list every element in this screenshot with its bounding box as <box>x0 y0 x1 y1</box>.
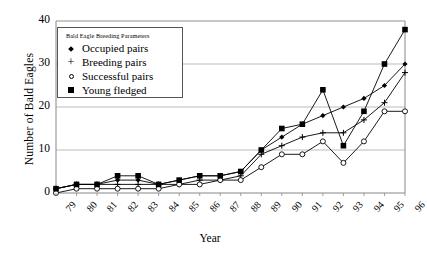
y-tick-label: 20 <box>24 99 50 111</box>
y-tick-label: 30 <box>24 56 50 68</box>
legend-item-breeding-pairs: + Breeding pairs <box>63 55 177 69</box>
chart-legend: Bald Eagle Breeding Parameters Occupied … <box>57 27 183 98</box>
legend-item-successful-pairs: Successful pairs <box>63 69 177 83</box>
diamond-icon <box>63 43 79 53</box>
y-tick-label: 0 <box>24 185 50 197</box>
open-circle-icon <box>63 71 79 81</box>
y-tick-label: 10 <box>24 142 50 154</box>
legend-item-young-fledged: Young fledged <box>63 83 177 97</box>
legend-label-breeding-pairs: Breeding pairs <box>82 56 146 68</box>
plus-icon: + <box>63 58 79 66</box>
legend-label-successful-pairs: Successful pairs <box>82 70 153 82</box>
legend-item-occupied-pairs: Occupied pairs <box>63 41 177 55</box>
legend-label-occupied-pairs: Occupied pairs <box>82 42 148 54</box>
legend-title: Bald Eagle Breeding Parameters <box>66 32 177 39</box>
legend-label-young-fledged: Young fledged <box>82 84 147 96</box>
filled-square-icon <box>63 85 79 95</box>
y-tick-label: 40 <box>24 13 50 25</box>
